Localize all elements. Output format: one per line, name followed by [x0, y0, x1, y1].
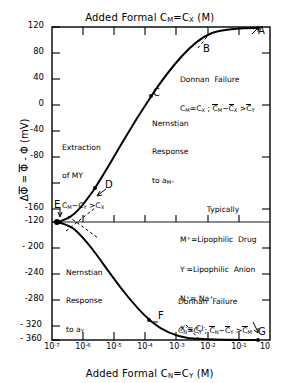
donnan-bot-equation: CN=CY ; CN~CY >CM	[178, 326, 252, 336]
donnan-top-equation: CM=CX ; CM~CX >CY	[180, 104, 255, 114]
annotation-nernstian-response-y: Nernstian Response to aY	[66, 249, 103, 353]
y-tick-label-n200: - 200	[16, 242, 46, 251]
point-label-F: F	[158, 311, 164, 322]
nernst-m-line2: Response	[152, 147, 189, 156]
point-label-E: E	[54, 200, 60, 211]
y-tick-label-80: 80	[16, 47, 46, 56]
legend-entry-y: Y-=Lipophilic Anion	[180, 265, 266, 274]
donnan-top-title: Donnan Failure	[180, 75, 255, 84]
annotation-extraction-of-my: Extraction of MY CM~CY >CX	[62, 124, 104, 229]
y-tick-label-40: 40	[16, 73, 46, 82]
y-tick-label-120: 120	[16, 21, 46, 30]
y-tick-label-0: 0	[16, 99, 46, 108]
typically-title: Typically	[180, 205, 266, 214]
nernst-m-line3: to aM+	[152, 176, 189, 186]
y-tick-label-n160: -160	[16, 203, 46, 212]
nernst-y-line1: Nernstian	[66, 268, 103, 277]
y-tick-label-n80: -80	[16, 151, 46, 160]
point-label-B: B	[203, 44, 210, 55]
extraction-line2: of MY	[62, 171, 104, 180]
y-tick-label-n240: -240	[16, 268, 46, 277]
point-label-A: A	[258, 26, 265, 37]
annotation-donnan-failure-bottom: Donnan Failure CN=CY ; CN~CY >CM	[178, 278, 252, 355]
nernst-y-line3: to aY	[66, 325, 103, 335]
point-label-C: C	[153, 88, 160, 99]
extraction-line1: Extraction	[62, 143, 104, 152]
point-label-D: D	[105, 180, 113, 191]
y-tick-label-n120: -120	[16, 216, 46, 225]
x-tick-label-1e-5: 10-5	[101, 343, 127, 351]
donnan-bot-title: Donnan Failure	[178, 297, 252, 306]
x-tick-label-1e-7: 10-7	[39, 343, 65, 351]
point-marker-F	[147, 318, 151, 322]
y-axis-ticks	[52, 27, 62, 340]
y-tick-label-n360: - 360	[14, 334, 44, 343]
point-marker-E	[54, 219, 60, 225]
x-tick-label-1e-4: 10-4	[132, 343, 158, 351]
annotation-donnan-failure-top: Donnan Failure CM=CX ; CM~CX >CY	[180, 56, 255, 133]
extraction-equation: CM~CY >CX	[62, 201, 104, 211]
y-tick-label-n320: - 320	[14, 320, 44, 329]
legend-entry-m: M+=Lipophilic Drug	[180, 235, 266, 244]
y-tick-label-n40: -40	[16, 125, 46, 134]
y-tick-label-n280: -280	[16, 294, 46, 303]
nernst-y-line2: Response	[66, 296, 103, 305]
nernst-m-line1: Nernstian	[152, 119, 189, 128]
